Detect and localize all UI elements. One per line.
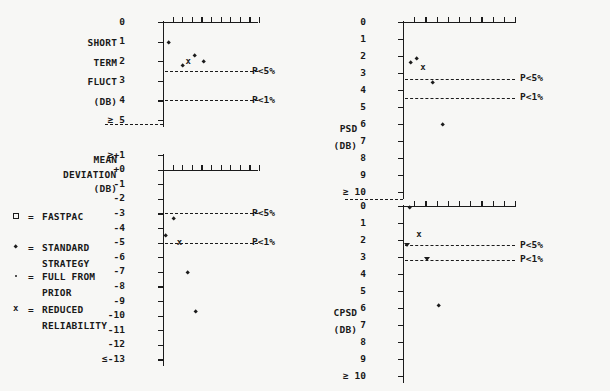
x-tick-cpsd-1 <box>414 201 415 207</box>
y-tick-psd-7 <box>398 141 404 142</box>
y-tick-mean-deviation-8 <box>158 272 164 273</box>
y-tick-short-term-fluct-4 <box>158 100 164 101</box>
x-tick-mean-deviation-8 <box>240 165 241 171</box>
x-tick-short-term-fluct-9 <box>249 17 250 23</box>
x-tick-psd-1 <box>414 17 415 23</box>
data-point-mean-deviation-3 <box>186 270 191 275</box>
legend-symbol-0 <box>13 213 19 219</box>
y-tick-mean-deviation-1 <box>158 170 164 171</box>
y-tick-mean-deviation-3 <box>158 199 164 200</box>
ref-label-psd-p1: P<1% <box>520 92 543 102</box>
x-tick-mean-deviation-10 <box>259 165 260 171</box>
y-tick-mean-deviation-0 <box>158 155 164 156</box>
panel-title-mean-deviation-2: (DB) <box>94 184 118 194</box>
y-tick-label-psd-9: 9 <box>308 170 366 180</box>
y-tick-label-psd-1: 1 <box>308 34 366 44</box>
y-tick-label-cpsd-3: 3 <box>308 252 366 262</box>
y-tick-cpsd-2 <box>398 240 404 241</box>
y-tick-label-short-term-fluct-0: 0 <box>67 17 125 27</box>
ref-line-short-term-fluct-p1 <box>165 100 258 101</box>
y-tick-label-cpsd-4: 4 <box>308 269 366 279</box>
y-tick-short-term-fluct-2 <box>158 61 164 62</box>
data-point-psd-3 <box>430 80 435 85</box>
legend-label-0-line1: FASTPAC <box>42 212 83 222</box>
x-tick-mean-deviation-4 <box>201 165 202 171</box>
x-tick-short-term-fluct-1 <box>173 17 174 23</box>
figure-canvas: 01234≥ 5P<5%P<1%xSHORTTERMFLUCT(DB)≥+1+0… <box>0 0 610 391</box>
x-tick-psd-8 <box>493 17 494 23</box>
panel-title-short-term-fluct-1: TERM <box>94 58 118 68</box>
ref-label-mean-deviation-p1: P<1% <box>252 237 275 247</box>
y-tick-cpsd-6 <box>398 308 404 309</box>
legend-equals-2: = <box>28 272 34 282</box>
data-point-short-term-fluct-3 <box>192 53 197 58</box>
legend-equals-0: = <box>28 212 34 222</box>
x-tick-mean-deviation-7 <box>230 165 231 171</box>
x-tick-short-term-fluct-7 <box>230 17 231 23</box>
ref-label-psd-p5: P<5% <box>520 73 543 83</box>
legend-label-1-line2: STRATEGY <box>42 259 89 269</box>
legend-label-2-line2: PRIOR <box>42 288 72 298</box>
x-tick-cpsd-5 <box>459 201 460 207</box>
y-tick-psd-10 <box>398 192 404 193</box>
y-tick-label-cpsd-1: 1 <box>308 218 366 228</box>
y-tick-cpsd-0 <box>398 206 404 207</box>
y-tick-psd-3 <box>398 73 404 74</box>
x-tick-mean-deviation-2 <box>182 165 183 171</box>
y-tick-mean-deviation-7 <box>158 257 164 258</box>
ref-label-short-term-fluct-p5: P<5% <box>252 66 275 76</box>
panel-title-psd-0: PSD <box>340 124 358 134</box>
x-tick-psd-10 <box>515 17 516 23</box>
legend-symbol-3: x <box>13 305 18 311</box>
y-tick-mean-deviation-12 <box>158 330 164 331</box>
data-point-short-term-fluct-2: x <box>185 58 190 64</box>
x-tick-short-term-fluct-2 <box>182 17 183 23</box>
y-tick-short-term-fluct-3 <box>158 81 164 82</box>
y-tick-label-psd-5: 5 <box>308 102 366 112</box>
legend-symbol-2 <box>15 275 18 278</box>
data-point-cpsd-4 <box>436 303 441 308</box>
x-tick-cpsd-6 <box>470 201 471 207</box>
x-tick-psd-9 <box>504 17 505 23</box>
legend-equals-1: = <box>28 243 34 253</box>
x-tick-psd-5 <box>459 17 460 23</box>
x-tick-mean-deviation-6 <box>221 165 222 171</box>
data-point-short-term-fluct-0 <box>166 40 171 45</box>
y-tick-label-mean-deviation-5: -4 <box>67 223 125 233</box>
y-tick-label-short-term-fluct-5: ≥ 5 <box>67 115 125 125</box>
y-tick-short-term-fluct-5 <box>158 120 164 121</box>
x-tick-short-term-fluct-8 <box>240 17 241 23</box>
x-tick-cpsd-2 <box>425 201 426 207</box>
y-axis-cpsd <box>403 205 404 383</box>
x-tick-cpsd-9 <box>504 201 505 207</box>
x-tick-short-term-fluct-3 <box>192 17 193 23</box>
y-tick-label-cpsd-9: 9 <box>308 354 366 364</box>
y-tick-psd-0 <box>398 22 404 23</box>
y-tick-cpsd-1 <box>398 223 404 224</box>
y-tick-label-cpsd-10: ≥ 10 <box>308 371 366 381</box>
panel-title-mean-deviation-1: DEVIATION <box>63 170 116 180</box>
y-tick-cpsd-3 <box>398 257 404 258</box>
y-tick-label-psd-2: 2 <box>308 51 366 61</box>
y-tick-cpsd-9 <box>398 359 404 360</box>
y-tick-cpsd-10 <box>398 376 404 377</box>
y-tick-cpsd-5 <box>398 291 404 292</box>
data-point-psd-1 <box>415 56 420 61</box>
y-tick-label-cpsd-8: 8 <box>308 337 366 347</box>
y-tick-psd-8 <box>398 158 404 159</box>
panel-separator-left <box>105 124 163 125</box>
y-tick-psd-1 <box>398 39 404 40</box>
y-tick-psd-5 <box>398 107 404 108</box>
y-tick-psd-9 <box>398 175 404 176</box>
data-point-mean-deviation-4 <box>193 310 198 315</box>
y-tick-psd-2 <box>398 56 404 57</box>
y-tick-label-psd-4: 4 <box>308 85 366 95</box>
panel-title-short-term-fluct-2: FLUCT <box>88 77 118 87</box>
y-tick-label-psd-10: ≥ 10 <box>308 187 366 197</box>
legend-symbol-1 <box>14 245 19 250</box>
x-tick-mean-deviation-9 <box>249 165 250 171</box>
ref-line-psd-p1 <box>405 98 515 99</box>
data-point-psd-2: x <box>420 64 425 70</box>
y-tick-cpsd-4 <box>398 274 404 275</box>
ref-line-cpsd-p5 <box>405 245 515 246</box>
